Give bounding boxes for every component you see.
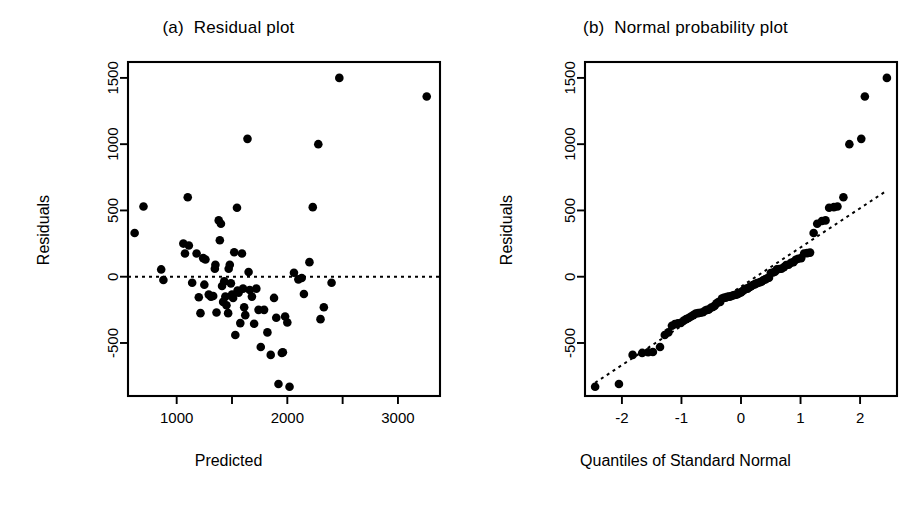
y-tick-label: 1000 — [104, 127, 121, 160]
data-point — [188, 278, 197, 287]
data-point — [211, 260, 220, 269]
data-point — [231, 331, 240, 340]
data-point — [883, 74, 892, 83]
data-point — [861, 92, 870, 101]
x-tick-label: 3000 — [381, 409, 414, 426]
data-point — [285, 382, 294, 391]
data-point — [201, 255, 210, 264]
x-tick-label: 1000 — [160, 409, 193, 426]
data-point — [217, 219, 226, 228]
y-tick-label: 0 — [561, 273, 578, 281]
data-point — [233, 203, 242, 212]
data-point — [263, 328, 272, 337]
data-point — [244, 268, 253, 277]
data-point — [422, 92, 431, 101]
data-point — [316, 315, 325, 324]
data-point — [591, 382, 600, 391]
data-point — [297, 274, 306, 283]
plot-frame — [128, 62, 440, 396]
data-point — [200, 280, 209, 289]
residual-diagnostics-figure: (a) Residual plot Residuals -50005001000… — [0, 0, 914, 505]
data-point — [857, 135, 866, 144]
data-point — [222, 301, 231, 310]
data-point — [656, 343, 665, 352]
data-point — [327, 278, 336, 287]
data-point — [185, 241, 194, 250]
data-point — [314, 140, 323, 149]
data-point — [183, 193, 192, 202]
y-tick-label: -500 — [104, 328, 121, 358]
data-point — [320, 303, 329, 312]
data-point — [243, 135, 252, 144]
data-point — [181, 249, 190, 258]
data-point — [274, 380, 283, 389]
panel-a-plot-area: -500050010001500100020003000 — [0, 0, 457, 505]
data-point — [209, 292, 218, 301]
data-point — [256, 343, 265, 352]
data-point — [845, 140, 854, 149]
data-point — [279, 348, 288, 357]
x-tick-label: 2 — [856, 409, 864, 426]
data-point — [628, 351, 637, 360]
x-tick-label: -1 — [675, 409, 688, 426]
data-point — [300, 290, 309, 299]
panel-b-plot-area: -500050010001500-2-1012 — [457, 0, 914, 505]
data-point — [283, 318, 292, 327]
data-point — [236, 319, 245, 328]
data-point — [335, 74, 344, 83]
x-tick-label: 1 — [796, 409, 804, 426]
y-tick-label: 0 — [104, 273, 121, 281]
data-point — [224, 309, 233, 318]
data-point — [248, 292, 257, 301]
x-tick-label: 0 — [737, 409, 745, 426]
y-tick-label: 1500 — [561, 61, 578, 94]
data-point — [216, 236, 225, 245]
data-point — [308, 203, 317, 212]
y-tick-label: -500 — [561, 328, 578, 358]
data-point — [266, 351, 275, 360]
plot-frame — [585, 62, 897, 396]
data-point — [196, 309, 205, 318]
data-point — [139, 202, 148, 211]
y-tick-label: 1500 — [104, 61, 121, 94]
data-point — [839, 193, 848, 202]
panel-residual-plot: (a) Residual plot Residuals -50005001000… — [0, 0, 457, 505]
data-point — [833, 202, 842, 211]
data-point — [240, 303, 249, 312]
data-point — [230, 248, 239, 257]
data-point — [238, 249, 247, 258]
data-point — [195, 293, 204, 302]
data-point — [212, 308, 221, 317]
data-point — [159, 276, 168, 285]
data-point — [615, 380, 624, 389]
y-tick-label: 500 — [561, 198, 578, 223]
x-tick-label: -2 — [615, 409, 628, 426]
data-point — [305, 258, 314, 267]
x-tick-label: 2000 — [271, 409, 304, 426]
y-tick-label: 1000 — [561, 127, 578, 160]
panel-normal-probability-plot: (b) Normal probability plot Residuals -5… — [457, 0, 914, 505]
data-point — [809, 229, 818, 238]
data-point — [649, 348, 658, 357]
panel-a-x-axis-label: Predicted — [0, 452, 457, 470]
data-point — [225, 260, 234, 269]
data-point — [130, 229, 139, 238]
data-point — [227, 279, 236, 288]
y-tick-label: 500 — [104, 198, 121, 223]
panel-b-x-axis-label: Quantiles of Standard Normal — [457, 452, 914, 470]
data-point — [821, 216, 830, 225]
data-point — [806, 248, 815, 257]
data-point — [272, 314, 281, 323]
data-point — [270, 294, 279, 303]
data-point — [260, 306, 269, 315]
data-point — [157, 265, 166, 274]
data-point — [250, 319, 259, 328]
data-point — [241, 311, 250, 320]
data-point — [252, 284, 261, 293]
